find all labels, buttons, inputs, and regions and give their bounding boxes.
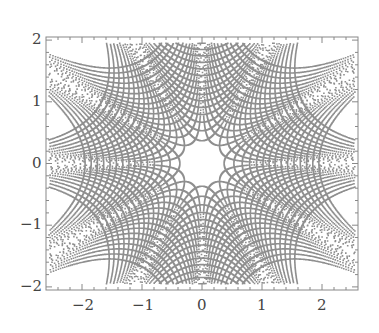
y-tick-label: −1 <box>20 217 42 232</box>
x-tick-label: 1 <box>257 298 267 313</box>
y-tick-label: 1 <box>32 94 42 109</box>
y-tick-label: 0 <box>32 156 42 171</box>
x-tick-label: 2 <box>317 298 327 313</box>
chart-plot <box>0 0 379 333</box>
x-tick-label: −2 <box>72 298 94 313</box>
x-tick-label: −1 <box>132 298 154 313</box>
x-tick-label: 0 <box>197 298 207 313</box>
y-tick-label: −2 <box>20 279 42 294</box>
y-tick-label: 2 <box>32 32 42 47</box>
data-points <box>48 42 355 284</box>
